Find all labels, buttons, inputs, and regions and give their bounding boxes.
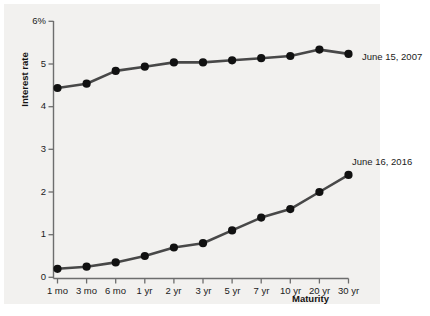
y-tick-label-0: 0	[14, 271, 46, 282]
series-label-june-16-2016: June 16, 2016	[352, 156, 412, 167]
y-tick-label-6: 6%	[14, 15, 46, 26]
x-tick-label-30yr: 30 yr	[328, 285, 369, 296]
x-axis-ticks	[58, 279, 349, 284]
series-2007-path	[58, 50, 349, 88]
y-tick-label-1: 1	[14, 228, 46, 239]
y-tick-label-3: 3	[14, 143, 46, 154]
chart-figure: Interest rate Maturity 6% 5 4 3 2 1 0 1 …	[0, 0, 430, 316]
y-tick-label-5: 5	[14, 58, 46, 69]
y-axis-ticks	[49, 21, 54, 277]
series-2016-markers	[53, 171, 352, 273]
series-line-june-15-2007	[53, 46, 352, 93]
y-tick-label-4: 4	[14, 100, 46, 111]
y-axis-title: Interest rate	[19, 35, 30, 125]
series-line-june-16-2016	[53, 171, 352, 273]
series-2016-path	[58, 175, 349, 269]
y-tick-label-2: 2	[14, 186, 46, 197]
series-label-june-15-2007: June 15, 2007	[362, 51, 422, 62]
